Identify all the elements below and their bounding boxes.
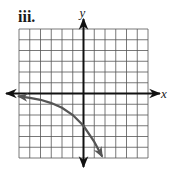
y-axis-label: y <box>78 5 86 20</box>
graph: x y <box>0 0 172 173</box>
x-axis-label: x <box>160 86 167 101</box>
